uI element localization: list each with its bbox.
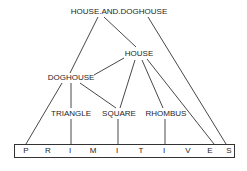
hierarchy-diagram: HOUSE.AND.DOGHOUSE HOUSE DOGHOUSE TRIANG… [0,0,247,171]
node-doghouse: DOGHOUSE [48,74,95,82]
node-triangle: TRIANGLE [51,110,91,118]
primitives-letter: V [185,147,190,155]
primitives-letter: M [90,147,97,155]
primitives-letter: I [69,147,71,155]
primitives-letter: R [45,147,51,155]
primitives-letter: P [23,147,28,155]
edge-hd-house [104,17,136,47]
node-rhombus: RHOMBUS [146,110,187,118]
primitives-letter: E [207,147,212,155]
primitives-letter: T [139,147,144,155]
node-square: SQUARE [102,110,136,118]
primitives-letter: I [116,147,118,155]
node-house: HOUSE [125,50,153,58]
edge-doghouse-square [80,83,116,108]
edge-house-primitives [147,59,214,144]
edge-hd-primitives [148,17,226,144]
edge-house-doghouse [94,58,124,75]
primitives-letter: S [226,147,231,155]
edge-house-rhombus [142,60,163,108]
edge-house-square [120,60,135,108]
primitives-letter: I [163,147,165,155]
edge-hd-doghouse [70,17,98,73]
node-house-and-doghouse: HOUSE.AND.DOGHOUSE [71,8,167,16]
